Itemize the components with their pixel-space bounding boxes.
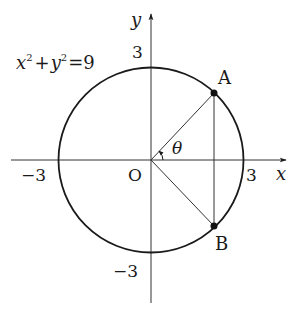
angle-arc — [159, 151, 163, 160]
y-axis-label: y — [130, 9, 142, 30]
angle-label: θ — [172, 138, 182, 158]
point-B — [211, 223, 218, 230]
tick-y-neg: −3 — [113, 261, 138, 281]
origin-label: O — [128, 165, 142, 185]
tick-x-neg: −3 — [21, 165, 46, 185]
tick-x-pos: 3 — [246, 165, 257, 185]
point-A-label: A — [217, 67, 232, 88]
tick-y-pos: 3 — [132, 42, 143, 62]
equation-label: x2+y2=9 — [16, 52, 95, 73]
circle-diagram: x2+y2=9 y x O 3 −3 −3 3 A B θ — [0, 0, 296, 310]
x-axis-label: x — [276, 163, 286, 184]
point-A — [211, 90, 218, 97]
segment-OA — [151, 93, 214, 160]
segment-OB — [151, 160, 214, 226]
point-B-label: B — [215, 233, 228, 254]
